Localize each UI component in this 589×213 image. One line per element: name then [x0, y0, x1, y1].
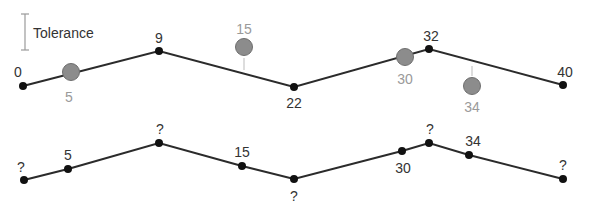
- vertex-label: 34: [465, 133, 481, 149]
- vertex-label: 5: [64, 147, 72, 163]
- removed-point: [397, 49, 414, 66]
- removed-point: [236, 39, 253, 56]
- tolerance-label: Tolerance: [33, 25, 94, 41]
- vertex: [238, 162, 246, 170]
- removed-point: [464, 78, 481, 95]
- vertex: [398, 147, 406, 155]
- vertex-label: 0: [14, 64, 22, 80]
- vertex-label: 32: [423, 28, 439, 44]
- vertex-label: 30: [395, 160, 411, 176]
- vertex-label: 22: [286, 95, 302, 111]
- bottom-line: [24, 143, 563, 180]
- removed-point-label: 15: [236, 21, 252, 37]
- tolerance-legend: Tolerance: [21, 14, 94, 50]
- vertex-label: ?: [426, 121, 434, 137]
- vertex: [465, 151, 473, 159]
- removed-point-label: 34: [464, 99, 480, 115]
- vertex: [155, 139, 163, 147]
- vertex: [290, 175, 298, 183]
- kept-vertex: [425, 45, 433, 53]
- removed-point-label: 30: [397, 71, 413, 87]
- top-line: [23, 49, 563, 87]
- vertex: [64, 165, 72, 173]
- removed-point: [63, 64, 80, 81]
- vertex-label: 40: [557, 64, 573, 80]
- kept-vertex: [19, 82, 27, 90]
- kept-vertex: [559, 81, 567, 89]
- vertex-label: ?: [559, 157, 567, 173]
- kept-vertex: [155, 47, 163, 55]
- removed-point-label: 5: [65, 89, 73, 105]
- vertex: [20, 176, 28, 184]
- kept-vertex: [290, 83, 298, 91]
- vertex-label: ?: [17, 159, 25, 175]
- vertex: [559, 175, 567, 183]
- polyline-simplification-diagram: Tolerance 515303409223240 ?5?15?30?34?: [0, 0, 589, 213]
- vertex-label: ?: [290, 188, 298, 204]
- vertex-label: 9: [155, 30, 163, 46]
- top-simplified-polyline: 515303409223240: [14, 21, 573, 115]
- vertex: [425, 139, 433, 147]
- vertex-label: 15: [234, 144, 250, 160]
- vertex-label: ?: [156, 121, 164, 137]
- bottom-original-polyline: ?5?15?30?34?: [17, 121, 567, 204]
